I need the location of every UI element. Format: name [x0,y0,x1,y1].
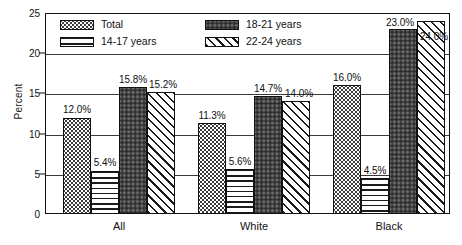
legend-label-total: Total [101,19,123,30]
x-tick-label-all: All [113,220,125,232]
legend-label-22-24: 22-24 years [246,36,301,47]
value-label-black-18-21: 23.0% [386,17,414,28]
legend-item-22-24: 22-24 years [205,36,350,47]
value-label-black-14-17: 4.5% [364,165,386,176]
bar-white-18-21 [254,96,282,214]
value-label-black-22-24: 24.0% [420,31,448,42]
legend-swatch-22-24-icon [205,37,239,47]
legend-swatch-total-icon [60,20,94,30]
bar-black-14-17 [361,178,389,214]
y-tick-label-0: 0 [0,209,40,220]
value-label-white-total: 11.3% [198,110,225,121]
bar-white-14-17 [226,169,254,214]
y-tick-label-20: 20 [0,48,40,59]
legend-label-14-17: 14-17 years [101,36,156,47]
legend-item-14-17: 14-17 years [60,36,205,47]
y-tick-label-5: 5 [0,168,40,179]
y-tick-label-15: 15 [0,88,40,99]
bar-white-22-24 [282,101,310,214]
y-tick-label-10: 10 [0,128,40,139]
x-tick-label-white: White [240,220,268,232]
bar-chart: Percent 25 20 15 10 5 0 [0,0,462,245]
legend-swatch-18-21-icon [205,20,239,30]
bar-all-22-24 [147,92,175,214]
legend: Total 18-21 years 14-17 years 22-24 year… [60,16,335,50]
value-label-all-22-24: 15.2% [149,79,177,90]
bar-all-14-17 [91,171,119,214]
legend-swatch-14-17-icon [60,37,94,47]
value-label-all-18-21: 15.8% [119,74,147,85]
bar-all-18-21 [119,87,147,214]
bar-black-22-24 [417,21,445,214]
x-tick-label-black: Black [376,220,403,232]
value-label-all-total: 12.0% [63,104,91,115]
legend-label-18-21: 18-21 years [246,19,301,30]
value-label-white-18-21: 14.7% [254,83,282,94]
bar-all-total [63,118,91,215]
value-label-white-14-17: 5.6% [229,156,251,167]
value-label-white-22-24: 14.0% [285,88,313,99]
bar-black-total [333,85,361,214]
legend-item-18-21: 18-21 years [205,19,350,30]
y-tick-label-25: 25 [0,8,40,19]
bar-white-total [198,123,226,214]
value-label-all-14-17: 5.4% [94,157,116,168]
bar-black-18-21 [389,29,417,214]
legend-item-total: Total [60,19,205,30]
value-label-black-total: 16.0% [333,72,361,83]
